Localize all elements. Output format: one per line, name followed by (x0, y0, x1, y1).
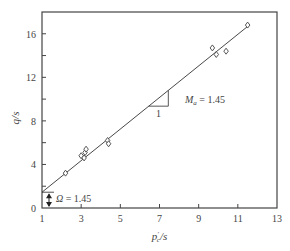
arrow-down-icon (46, 202, 52, 207)
y-axis-ticks: 0481216 (26, 29, 46, 214)
axis-labels: p′c/sq/s (9, 112, 167, 244)
x-tick-label: 1 (40, 213, 45, 224)
x-tick-label: 3 (79, 213, 84, 224)
y-tick-label: 4 (31, 159, 36, 170)
arrow-up-icon (46, 193, 52, 198)
data-point-diamond (63, 170, 68, 176)
y-tick-label: 8 (31, 116, 36, 127)
chart: 135791113 0481216 1Ma = 1.45 Ω = 1.45 p′… (0, 0, 290, 251)
slope-triangle: 1Ma = 1.45 (149, 90, 225, 119)
data-point-diamond (224, 48, 229, 54)
data-point-diamond (210, 45, 215, 51)
x-tick-label: 9 (196, 213, 201, 224)
x-tick-label: 11 (233, 213, 243, 224)
y-tick-label: 0 (31, 203, 36, 214)
regression-line (42, 25, 250, 192)
y-axis-title: q/s (9, 112, 21, 125)
x-axis-ticks: 135791113 (40, 204, 283, 224)
fit-line (42, 25, 250, 192)
x-tick-label: 5 (118, 213, 123, 224)
data-point-diamond (214, 51, 219, 57)
x-tick-label: 7 (157, 213, 162, 224)
slope-value-label: Ma = 1.45 (184, 94, 225, 107)
y-tick-label: 12 (26, 72, 36, 83)
x-axis-title: p′c/s (151, 230, 167, 244)
y-tick-label: 16 (26, 29, 36, 40)
omega-annotation: Ω = 1.45 (42, 192, 91, 207)
omega-label: Ω = 1.45 (56, 193, 91, 204)
slope-run-label: 1 (156, 108, 161, 119)
x-tick-label: 13 (272, 213, 282, 224)
